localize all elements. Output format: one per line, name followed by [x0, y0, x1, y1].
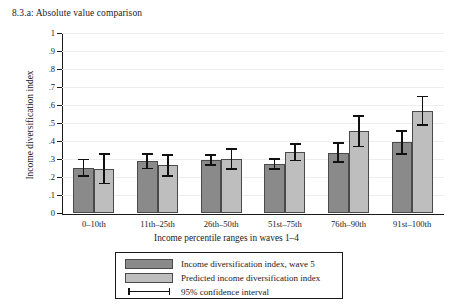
error-bar-cap-top: [396, 130, 407, 132]
legend-label-ci: 95% confidence interval: [181, 287, 269, 297]
gridline: [62, 177, 444, 178]
error-bar-cap-bottom: [99, 183, 110, 185]
error-bar-line: [358, 116, 360, 147]
error-bar-cap-bottom: [333, 161, 344, 163]
error-bar-cap-bottom: [353, 146, 364, 148]
legend-swatch-light: [125, 273, 173, 283]
error-bar-cap-top: [417, 96, 428, 98]
gridline: [62, 69, 444, 70]
y-tick-label: .8: [49, 64, 55, 74]
legend-swatch-dark: [125, 259, 173, 269]
confidence-interval-icon: [125, 287, 173, 297]
y-tick-mark: [57, 141, 62, 142]
gridline: [62, 87, 444, 88]
bar: [264, 164, 285, 213]
gridline: [62, 159, 444, 160]
error-bar-line: [294, 144, 296, 160]
gridline: [62, 141, 444, 142]
legend-item-predicted: Predicted income diversification index: [116, 270, 342, 285]
plot-area: 0.1.2.3.4.5.6.7.8.91: [62, 33, 444, 213]
error-bar-cap-top: [142, 153, 153, 155]
error-bar-cap-bottom: [226, 168, 237, 170]
y-tick-label: .7: [49, 82, 55, 92]
error-bar-cap-top: [99, 153, 110, 155]
bar-group: [201, 33, 242, 213]
y-tick-mark: [57, 51, 62, 52]
error-bar-line: [146, 154, 148, 168]
error-bar-line: [103, 154, 105, 184]
y-tick-mark: [57, 195, 62, 196]
x-tick-label: 76th–90th: [331, 219, 366, 229]
y-tick-label: .9: [49, 46, 55, 56]
legend-label-wave5: Income diversification index, wave 5: [181, 259, 315, 269]
x-tick-label: 0–10th: [82, 219, 106, 229]
error-bar-cap-bottom: [78, 175, 89, 177]
gridline: [62, 105, 444, 106]
error-bar-line: [401, 131, 403, 154]
error-bar-cap-top: [333, 142, 344, 144]
error-bar-line: [422, 96, 424, 124]
y-tick-mark: [57, 123, 62, 124]
y-tick-label: .5: [49, 118, 55, 128]
bar: [285, 152, 306, 213]
error-bar-cap-top: [205, 154, 216, 156]
y-tick-mark: [57, 87, 62, 88]
error-bar-cap-bottom: [396, 153, 407, 155]
error-bar-cap-bottom: [290, 160, 301, 162]
y-tick-label: .6: [49, 100, 55, 110]
y-tick-mark: [57, 105, 62, 106]
bar: [412, 111, 433, 213]
error-bar-cap-top: [353, 115, 364, 117]
error-bar-line: [167, 155, 169, 176]
x-tick-label: 91st–100th: [393, 219, 431, 229]
error-bar-cap-top: [78, 159, 89, 161]
bar-group: [264, 33, 305, 213]
error-bar-line: [83, 159, 85, 176]
y-tick-label: .2: [49, 172, 55, 182]
y-tick-label: 0: [51, 208, 55, 218]
y-tick-label: .1: [49, 190, 55, 200]
chart-title: 8.3.a: Absolute value comparison: [12, 8, 142, 18]
y-tick-mark: [57, 213, 62, 214]
y-axis-label: Income diversification index: [25, 35, 35, 215]
legend-item-ci: 95% confidence interval: [116, 284, 342, 299]
error-bar-line: [231, 149, 233, 170]
error-bar-line: [337, 143, 339, 162]
error-bar-cap-top: [226, 148, 237, 150]
gridline: [62, 51, 444, 52]
x-tick-label: 11th–25th: [140, 219, 175, 229]
error-bar-cap-top: [162, 154, 173, 156]
x-tick-label: 51st–75th: [268, 219, 302, 229]
x-axis-line: [62, 214, 444, 215]
y-tick-label: 1: [51, 28, 55, 38]
y-tick-label: .4: [49, 136, 55, 146]
legend-item-wave5: Income diversification index, wave 5: [116, 256, 342, 271]
y-tick-label: .3: [49, 154, 55, 164]
bar-group: [392, 33, 433, 213]
error-bar-cap-top: [269, 158, 280, 160]
bar: [201, 160, 222, 213]
figure: 8.3.a: Absolute value comparison Income …: [0, 0, 453, 305]
bar-group: [73, 33, 114, 213]
y-tick-mark: [57, 69, 62, 70]
error-bar-cap-bottom: [269, 168, 280, 170]
error-bar-cap-top: [290, 143, 301, 145]
error-bar-cap-bottom: [162, 175, 173, 177]
x-axis-label: Income percentile ranges in waves 1–4: [0, 233, 453, 243]
gridline: [62, 195, 444, 196]
gridline: [62, 123, 444, 124]
y-tick-mark: [57, 177, 62, 178]
x-tick-label: 26th–50th: [204, 219, 239, 229]
gridline: [62, 33, 444, 34]
error-bar-cap-bottom: [205, 164, 216, 166]
y-tick-mark: [57, 33, 62, 34]
bar-group: [328, 33, 369, 213]
legend: Income diversification index, wave 5 Pre…: [115, 252, 343, 299]
error-bar-cap-bottom: [142, 168, 153, 170]
error-bar-cap-bottom: [417, 124, 428, 126]
legend-label-predicted: Predicted income diversification index: [181, 273, 320, 283]
y-tick-mark: [57, 159, 62, 160]
bar-group: [137, 33, 178, 213]
